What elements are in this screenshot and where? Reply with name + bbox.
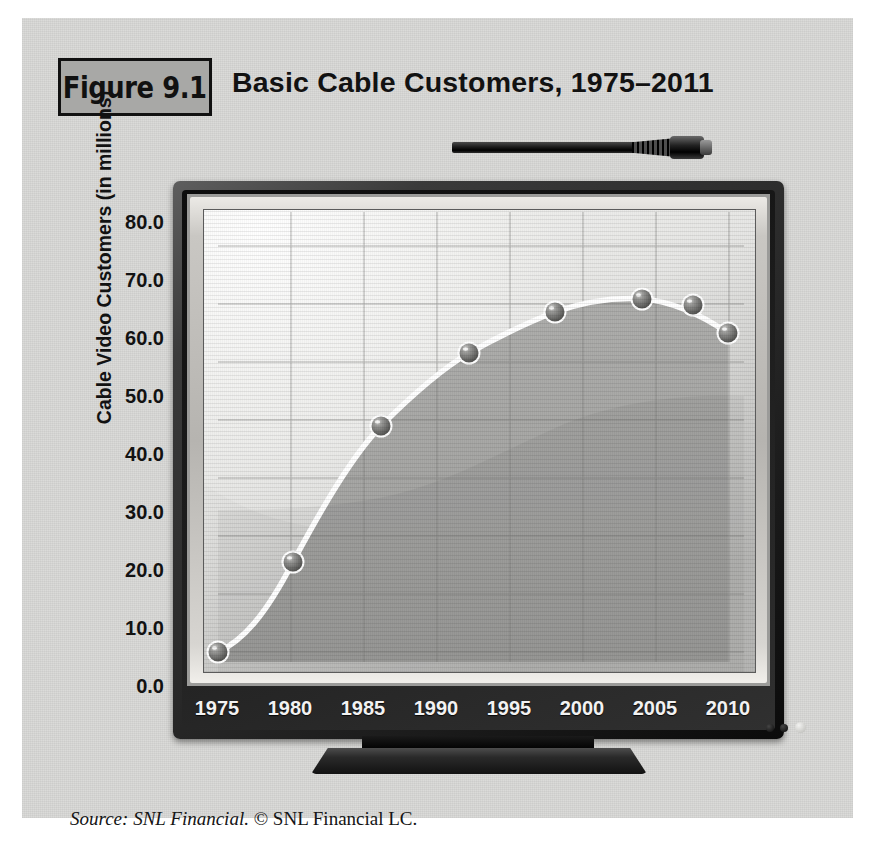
x-tick-label: 1980 <box>250 697 330 720</box>
source-copyright: © SNL Financial LC. <box>254 808 418 829</box>
data-point-marker <box>282 551 305 574</box>
monitor-device: 1975 1980 1985 1990 1995 2000 2005 2010 <box>173 181 784 739</box>
y-tick-label: 60.0 <box>94 327 164 350</box>
y-tick-label: 20.0 <box>94 559 164 582</box>
y-tick-label: 0.0 <box>94 675 164 698</box>
data-point-marker <box>544 301 567 324</box>
x-tick-label: 1985 <box>323 697 403 720</box>
x-tick-label: 1990 <box>396 697 476 720</box>
cable-connector-tip <box>700 140 712 155</box>
chart-plot-area <box>203 209 756 673</box>
data-point-marker <box>717 322 740 345</box>
chart-svg <box>204 210 755 672</box>
data-point-marker <box>458 342 481 365</box>
x-tick-label: 1995 <box>469 697 549 720</box>
monitor-indicator-lights <box>766 721 812 737</box>
figure-panel: Figure 9.1 Basic Cable Customers, 1975–2… <box>22 18 853 818</box>
data-point-marker <box>631 288 654 311</box>
y-tick-label: 40.0 <box>94 443 164 466</box>
source-label: Source: SNL Financial. <box>70 808 249 829</box>
x-tick-label: 2000 <box>542 697 622 720</box>
x-tick-label: 2005 <box>615 697 695 720</box>
data-point-marker <box>370 415 393 438</box>
y-tick-label: 80.0 <box>94 211 164 234</box>
page-title: Basic Cable Customers, 1975–2011 <box>232 66 714 99</box>
indicator-led-1 <box>766 724 774 732</box>
y-axis-ticks: 80.0 70.0 60.0 50.0 40.0 30.0 20.0 10.0 … <box>86 181 164 741</box>
x-tick-label: 2010 <box>688 697 768 720</box>
y-tick-label: 70.0 <box>94 269 164 292</box>
figure-number-label: Figure 9.1 <box>63 70 207 105</box>
source-note: Source: SNL Financial. © SNL Financial L… <box>70 808 417 830</box>
y-tick-label: 10.0 <box>94 617 164 640</box>
power-led[interactable] <box>795 722 806 733</box>
figure-page: Figure 9.1 Basic Cable Customers, 1975–2… <box>0 0 875 854</box>
x-tick-label: 1975 <box>177 697 257 720</box>
chart-canvas <box>204 210 755 672</box>
monitor-stand-neck <box>362 736 594 750</box>
figure-number-badge: Figure 9.1 <box>58 58 212 116</box>
y-tick-label: 50.0 <box>94 385 164 408</box>
data-point-marker <box>207 641 230 664</box>
cable-connector-barrel <box>670 136 704 159</box>
monitor-stand-base <box>311 748 647 774</box>
x-axis-ticks: 1975 1980 1985 1990 1995 2000 2005 2010 <box>173 697 784 731</box>
y-tick-label: 30.0 <box>94 501 164 524</box>
cable-wire <box>452 142 640 153</box>
data-point-marker <box>682 294 705 317</box>
indicator-led-2 <box>780 724 788 732</box>
coaxial-cable-icon <box>452 136 692 158</box>
